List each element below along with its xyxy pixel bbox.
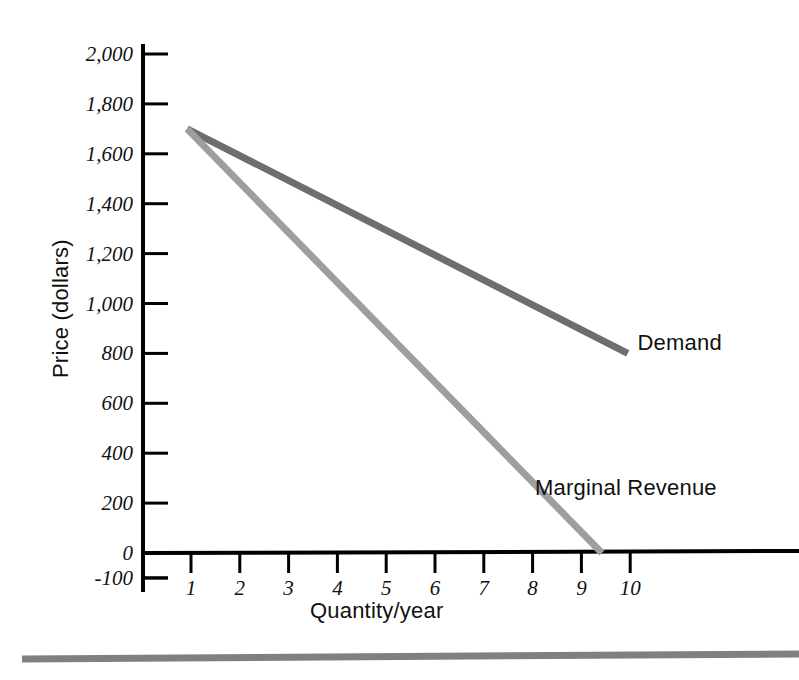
footer-rule: [22, 654, 799, 659]
y-axis-tick-label: 1,200: [86, 243, 133, 264]
x-axis-ticks: [191, 553, 630, 573]
y-axis-title: Price (dollars): [50, 239, 72, 378]
series-label-demand: Demand: [638, 332, 722, 354]
x-axis-tick-label: 2: [235, 578, 246, 599]
y-axis-tick-label: 2,000: [86, 44, 133, 65]
x-axis-tick-label: 9: [576, 578, 587, 599]
y-axis-tick-label: 600: [102, 393, 134, 414]
y-axis-tick-label: 1,000: [86, 293, 133, 314]
x-axis-line: [141, 551, 799, 553]
series-line-demand: [187, 129, 628, 354]
x-axis-title: Quantity/year: [310, 600, 443, 622]
y-axis-tick-label: 1,400: [86, 193, 133, 214]
x-axis-tick-label: 5: [381, 578, 392, 599]
y-axis-tick-label: 800: [102, 343, 134, 364]
x-axis-tick-label: 8: [527, 578, 538, 599]
x-axis-tick-label: 10: [620, 578, 641, 599]
y-axis-ticks: [143, 54, 168, 578]
x-axis-tick-label: 6: [430, 578, 441, 599]
axes-group: [141, 44, 799, 592]
x-axis-tick-label: 1: [186, 578, 197, 599]
x-axis-tick-label: 4: [332, 578, 343, 599]
y-axis-tick-label: 0: [123, 543, 134, 564]
y-axis-tick-label: 1,800: [86, 93, 133, 114]
series-label-marginal-revenue: Marginal Revenue: [535, 477, 717, 499]
x-axis-tick-label: 7: [479, 578, 490, 599]
figure-container: 2,0001,8001,6001,4001,2001,0008006004002…: [0, 0, 799, 680]
y-axis-tick-label: -100: [95, 567, 134, 588]
y-axis-tick-label: 200: [102, 493, 134, 514]
y-axis-tick-label: 400: [102, 443, 134, 464]
x-axis-tick-label: 3: [283, 578, 294, 599]
y-axis-tick-label: 1,600: [86, 143, 133, 164]
